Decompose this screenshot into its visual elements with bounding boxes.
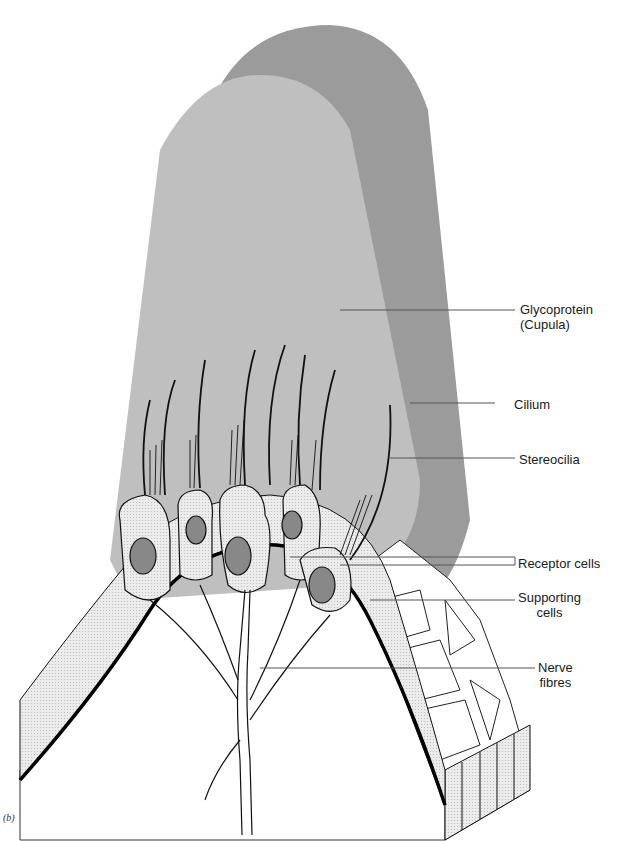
nerve-fibres [150,580,330,835]
label-supporting-cells: Supporting cells [518,590,581,620]
label-glycoprotein: Glycoprotein (Cupula) [520,302,593,332]
label-stereocilia: Stereocilia [519,452,580,467]
panel-label: (b) [3,812,15,823]
label-receptor-cells: Receptor cells [518,556,600,571]
label-cilium: Cilium [514,397,550,412]
label-nerve-fibres: Nerve fibres [538,660,573,690]
crista-ampullaris-diagram [0,0,627,841]
